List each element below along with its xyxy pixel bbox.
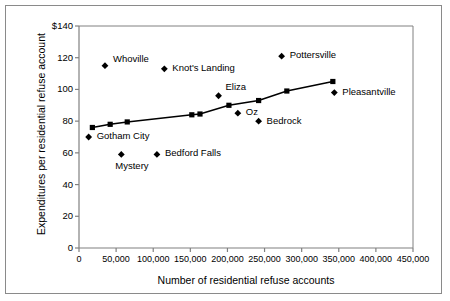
point-label: Bedford Falls bbox=[165, 148, 221, 158]
y-tick-label: 80 bbox=[37, 116, 73, 126]
scatter-chart: Expenditures per residential refuse acco… bbox=[0, 0, 450, 301]
y-tick-label: 120 bbox=[37, 53, 73, 63]
y-tick-label: $140 bbox=[37, 21, 73, 31]
point-label: Gotham City bbox=[97, 131, 150, 141]
point-label: Oz bbox=[246, 107, 258, 117]
x-tick-label: 450,000 bbox=[390, 254, 436, 264]
point-label: Whoville bbox=[113, 54, 149, 64]
point-label: Bedrock bbox=[267, 116, 302, 126]
point-label: Pleasantville bbox=[342, 87, 395, 97]
point-label: Knot's Landing bbox=[172, 63, 235, 73]
y-tick-label: 20 bbox=[37, 211, 73, 221]
point-label: Mystery bbox=[115, 161, 148, 171]
y-tick-label: 40 bbox=[37, 180, 73, 190]
point-label: Eliza bbox=[226, 82, 247, 92]
y-tick-label: 0 bbox=[37, 243, 73, 253]
x-axis-title: Number of residential refuse accounts bbox=[79, 274, 413, 286]
y-tick-label: 60 bbox=[37, 148, 73, 158]
point-label: Pottersville bbox=[290, 50, 336, 60]
y-tick-label: 100 bbox=[37, 84, 73, 94]
